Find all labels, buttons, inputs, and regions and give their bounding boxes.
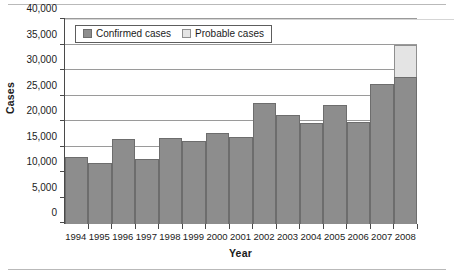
bar-segment-confirmed xyxy=(323,105,346,224)
x-axis-tick-label-2001: 2001 xyxy=(229,231,253,242)
bar-2003 xyxy=(276,19,299,223)
y-axis-title: Cases xyxy=(4,98,16,114)
legend-label: Confirmed cases xyxy=(96,28,171,39)
x-axis-tick xyxy=(346,224,370,230)
x-axis-tick-label-1994: 1994 xyxy=(64,231,88,242)
x-axis-tick-label-2006: 2006 xyxy=(346,231,370,242)
y-axis-tick-label: 40,000 xyxy=(26,3,57,14)
bar-segment-confirmed xyxy=(347,122,370,224)
bar-segment-confirmed xyxy=(88,163,111,224)
bar-segment-confirmed xyxy=(229,137,252,224)
bar-segment-confirmed xyxy=(253,103,276,224)
bar-segment-confirmed xyxy=(159,138,182,224)
x-axis-tick xyxy=(252,224,276,230)
x-axis-tick xyxy=(205,224,229,230)
bar-segment-confirmed xyxy=(206,133,229,224)
bar-segment-confirmed xyxy=(370,84,393,224)
x-axis-tick xyxy=(323,224,347,230)
x-axis-tick xyxy=(88,224,112,230)
x-axis-tick-label-2003: 2003 xyxy=(276,231,300,242)
bar-2006 xyxy=(347,19,370,223)
dark-gray-swatch xyxy=(83,29,92,38)
light-gray-swatch xyxy=(182,29,191,38)
x-axis-tick xyxy=(158,224,182,230)
bar-1996 xyxy=(112,19,135,223)
bar-2000 xyxy=(206,19,229,223)
y-axis-tick-label: 25,000 xyxy=(26,79,57,90)
y-axis-tick-label: 15,000 xyxy=(26,130,57,141)
x-axis-tick-label-2000: 2000 xyxy=(205,231,229,242)
x-axis-tick-labels: 1994199519961997199819992000200120022003… xyxy=(64,231,417,242)
y-axis-tick-label: 35,000 xyxy=(26,28,57,39)
bar-2008 xyxy=(394,19,417,223)
x-axis-tick xyxy=(370,224,394,230)
y-axis-tick-label: 20,000 xyxy=(26,105,57,116)
bar-2007 xyxy=(370,19,393,223)
bar-segment-confirmed xyxy=(394,77,417,224)
x-axis-tick xyxy=(111,224,135,230)
bar-1998 xyxy=(159,19,182,223)
x-axis-tick-label-2007: 2007 xyxy=(370,231,394,242)
x-axis-tick-label-2004: 2004 xyxy=(299,231,323,242)
y-axis-tick-label: 5,000 xyxy=(32,181,57,192)
bar-1994 xyxy=(65,19,88,223)
plot-area: 05,00010,00015,00020,00025,00030,00035,0… xyxy=(64,19,417,224)
bar-2004 xyxy=(300,19,323,223)
bar-segment-confirmed xyxy=(300,123,323,224)
x-axis-tick xyxy=(393,224,417,230)
x-axis-tick xyxy=(135,224,159,230)
x-axis-tick-label-1996: 1996 xyxy=(111,231,135,242)
x-axis-ticks xyxy=(64,224,417,230)
legend-entry-probable: Probable cases xyxy=(182,28,264,39)
bar-chart-figure: Cases 05,00010,00015,00020,00025,00030,0… xyxy=(0,8,454,266)
legend-label: Probable cases xyxy=(195,28,264,39)
x-axis-tick xyxy=(182,224,206,230)
bar-segment-probable xyxy=(394,45,417,78)
x-axis-tick-label-2002: 2002 xyxy=(252,231,276,242)
bar-2005 xyxy=(323,19,346,223)
bar-2002 xyxy=(253,19,276,223)
x-axis-tick-label-1997: 1997 xyxy=(135,231,159,242)
bar-segment-confirmed xyxy=(276,115,299,224)
x-axis-tick xyxy=(229,224,253,230)
bar-segment-confirmed xyxy=(112,139,135,224)
bar-segment-confirmed xyxy=(65,157,88,224)
x-axis-tick xyxy=(276,224,300,230)
bar-1997 xyxy=(135,19,158,223)
page-rule-top xyxy=(8,4,446,5)
page-rule-bottom xyxy=(8,269,446,270)
x-axis-tick xyxy=(64,224,88,230)
bar-1995 xyxy=(88,19,111,223)
x-axis-tick-label-2008: 2008 xyxy=(393,231,417,242)
x-axis-title: Year xyxy=(64,247,417,259)
chart-legend: Confirmed casesProbable cases xyxy=(75,25,272,43)
y-axis-tick-label: 0 xyxy=(51,207,57,218)
bar-group xyxy=(65,19,417,223)
x-axis-tick-label-2005: 2005 xyxy=(323,231,347,242)
y-axis-tick-label: 30,000 xyxy=(26,54,57,65)
x-axis-tick-label-1999: 1999 xyxy=(182,231,206,242)
bar-segment-confirmed xyxy=(135,159,158,224)
y-axis-tick-label: 10,000 xyxy=(26,156,57,167)
x-axis-tick-label-1998: 1998 xyxy=(158,231,182,242)
bar-2001 xyxy=(229,19,252,223)
x-axis-tick xyxy=(299,224,323,230)
x-axis-tick-label-1995: 1995 xyxy=(88,231,112,242)
bar-1999 xyxy=(182,19,205,223)
legend-entry-confirmed: Confirmed cases xyxy=(83,28,171,39)
bar-segment-confirmed xyxy=(182,141,205,224)
